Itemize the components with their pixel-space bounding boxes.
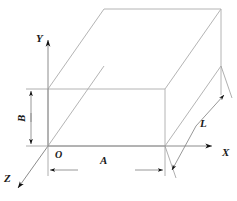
coordinate-axes <box>18 40 212 188</box>
box-edge-depth-top-right <box>165 9 221 89</box>
figure-drawing-canvas <box>0 0 237 201</box>
x-axis-label: X <box>222 147 229 158</box>
z-axis-line <box>18 146 48 188</box>
box-edge-depth-bottom-right <box>165 66 221 146</box>
width-dimension-label: A <box>100 155 107 166</box>
y-axis-label: Y <box>36 33 43 44</box>
extension-line-l-far <box>221 66 232 98</box>
geometry-figure: Y X Z O A B L <box>0 0 237 201</box>
box-depth-edges <box>48 9 221 146</box>
origin-label: O <box>55 150 62 160</box>
box-edge-depth-bottom-left-hidden <box>48 66 104 146</box>
box-back-face <box>104 9 221 95</box>
height-dimension-label: B <box>16 115 27 122</box>
height-dimension-B <box>26 89 48 146</box>
depth-dimension-L <box>165 66 232 178</box>
box-edge-depth-top-left <box>48 9 104 89</box>
dimension-arrow-l-near <box>172 126 196 170</box>
extension-line-l-near <box>165 146 176 178</box>
depth-dimension-label: L <box>200 118 207 129</box>
box-front-face <box>48 89 165 146</box>
z-axis-label: Z <box>4 173 11 184</box>
